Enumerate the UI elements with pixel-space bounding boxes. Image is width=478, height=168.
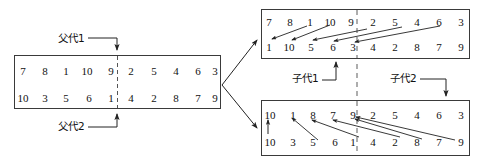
parent2-gene: 4	[122, 93, 140, 104]
child2-top-gene: 3	[453, 110, 469, 121]
child1-bottom-gene: 2	[387, 42, 403, 53]
child2-top-gene: 9	[345, 110, 361, 121]
child1-bottom-gene: 4	[365, 42, 381, 53]
parent2-leader-line	[88, 114, 117, 127]
child1-bottom-gene: 3	[345, 42, 361, 53]
parent2-gene: 7	[189, 93, 207, 104]
parent1-gene: 1	[57, 66, 75, 77]
child2-bottom-lead-gene: 10	[261, 137, 279, 148]
parent2-gene: 9	[206, 93, 224, 104]
child2-bottom-gene: 2	[387, 137, 403, 148]
parent1-gene: 5	[145, 66, 163, 77]
parent2-gene: 2	[145, 93, 163, 104]
child2-bottom-gene: 3	[285, 137, 301, 148]
parent1-gene: 6	[189, 66, 207, 77]
child1-top-gene: 4	[409, 17, 425, 28]
child2-top-lead-gene: 10	[261, 110, 279, 121]
parent1-leader-line	[88, 38, 117, 50]
parent2-gene: 8	[167, 93, 185, 104]
connector-to-child1	[222, 40, 257, 85]
child2-bottom-gene: 4	[365, 137, 381, 148]
parent1-gene: 10	[78, 66, 96, 77]
child1-bottom-gene: 8	[409, 42, 425, 53]
parent1-gene: 3	[206, 66, 224, 77]
child2-top-gene: 6	[431, 110, 447, 121]
connector-to-child2	[222, 85, 257, 128]
child1-bottom-gene: 1	[261, 42, 277, 53]
parent1-gene: 4	[167, 66, 185, 77]
child1-top-gene: 3	[453, 17, 469, 28]
parent2-gene: 10	[14, 93, 32, 104]
child1-bottom-gene: 9	[453, 42, 469, 53]
child2-label: 子代2	[390, 73, 417, 84]
child2-top-gene: 1	[285, 110, 301, 121]
child2-bottom-gene: 5	[305, 137, 321, 148]
child2-leader-line	[420, 79, 446, 96]
parent1-gene: 7	[14, 66, 32, 77]
parent1-gene: 8	[36, 66, 54, 77]
child1-top-gene: 2	[365, 17, 381, 28]
parent2-gene: 5	[57, 93, 75, 104]
child1-bottom-gene: 6	[325, 42, 341, 53]
child1-top-gene: 9	[343, 17, 359, 28]
parent2-gene: 1	[102, 93, 120, 104]
parent2-label: 父代2	[58, 121, 85, 132]
child1-top-gene: 10	[322, 17, 338, 28]
child1-leader-line	[322, 62, 336, 80]
parent1-label: 父代1	[58, 33, 85, 44]
child1-top-gene: 1	[302, 17, 318, 28]
parent1-gene: 2	[122, 66, 140, 77]
parent2-gene: 6	[80, 93, 98, 104]
child1-top-gene: 5	[387, 17, 403, 28]
child1-top-gene: 6	[431, 17, 447, 28]
child2-bottom-gene: 7	[431, 137, 447, 148]
child2-top-gene: 4	[409, 110, 425, 121]
child1-bottom-gene: 7	[431, 42, 447, 53]
crossover-diagram: 7 8 1 10 9 2 5 4 6 3 10 3 5 6 1 4 2 8 7 …	[0, 0, 478, 168]
child2-top-gene: 8	[305, 110, 321, 121]
child1-bottom-gene: 5	[303, 42, 319, 53]
child2-bottom-gene: 9	[453, 137, 469, 148]
child1-top-gene: 7	[261, 17, 277, 28]
parent1-gene: 9	[102, 66, 120, 77]
child2-bottom-gene: 6	[327, 137, 343, 148]
parent2-gene: 3	[36, 93, 54, 104]
child1-top-gene: 8	[282, 17, 298, 28]
child1-label: 子代1	[292, 73, 319, 84]
child2-top-gene: 2	[365, 110, 381, 121]
child2-bottom-gene: 8	[409, 137, 425, 148]
child1-bottom-gene: 10	[281, 42, 297, 53]
child2-top-gene: 7	[325, 110, 341, 121]
child2-top-gene: 5	[387, 110, 403, 121]
child2-bottom-gene: 1	[345, 137, 361, 148]
